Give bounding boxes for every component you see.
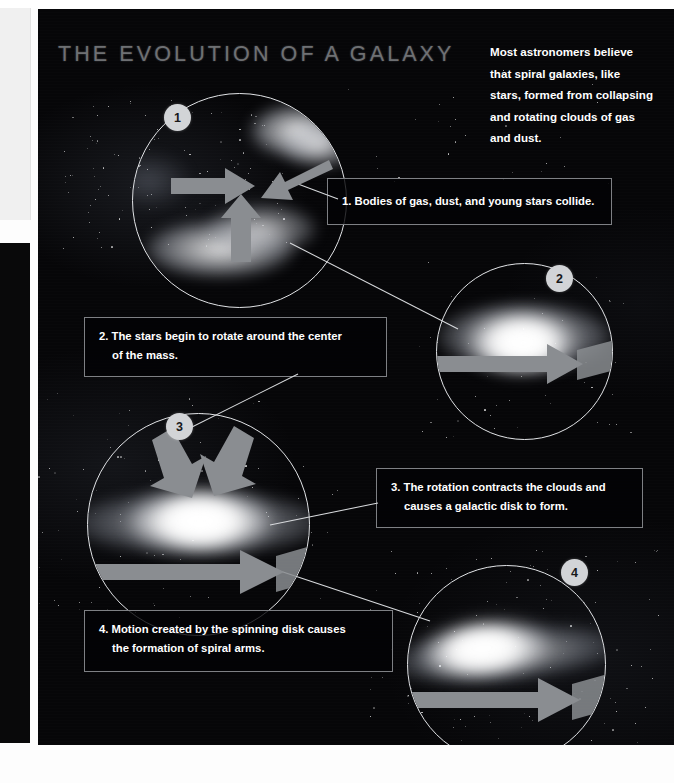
stage-2-caption: 2. The stars begin to rotate around the … xyxy=(84,317,387,377)
stage-2-badge: 2 xyxy=(546,265,573,292)
page-top-margin xyxy=(0,0,674,9)
stage-1-caption: 1. Bodies of gas, dust, and young stars … xyxy=(327,178,612,225)
left-margin-dark-strip xyxy=(0,243,30,743)
stage-2-illustration xyxy=(436,263,613,440)
caption-line: 3. The rotation contracts the clouds and xyxy=(391,478,630,497)
intro-line: that spiral galaxies, like xyxy=(490,63,655,85)
stage-1-badge: 1 xyxy=(164,104,191,131)
caption-line: 2. The stars begin to rotate around the … xyxy=(99,327,374,346)
intro-paragraph: Most astronomers believe that spiral gal… xyxy=(490,41,655,149)
infographic-panel: THE EVOLUTION OF A GALAXY Most astronome… xyxy=(38,9,674,745)
stage-4-caption: 4. Motion created by the spinning disk c… xyxy=(84,610,393,672)
caption-line: 4. Motion created by the spinning disk c… xyxy=(99,620,380,639)
intro-line: and rotating clouds of gas xyxy=(490,106,655,128)
caption-line: 1. Bodies of gas, dust, and young stars … xyxy=(342,192,594,211)
page-title: THE EVOLUTION OF A GALAXY xyxy=(58,42,455,67)
stage-3-badge: 3 xyxy=(166,413,193,440)
intro-line: stars, formed from collapsing xyxy=(490,84,655,106)
intro-line: Most astronomers believe xyxy=(490,41,655,63)
stage-1-illustration xyxy=(132,93,347,308)
intro-line: and dust. xyxy=(490,127,655,149)
stage-3-caption: 3. The rotation contracts the clouds and… xyxy=(376,468,643,528)
stage-3-illustration xyxy=(87,413,310,636)
caption-line: the formation of spiral arms. xyxy=(99,639,380,658)
stage-4-illustration xyxy=(407,565,606,745)
caption-line: of the mass. xyxy=(99,346,374,365)
stage-4-badge: 4 xyxy=(561,559,588,586)
left-margin-light-strip xyxy=(0,8,31,220)
caption-line: causes a galactic disk to form. xyxy=(391,497,630,516)
